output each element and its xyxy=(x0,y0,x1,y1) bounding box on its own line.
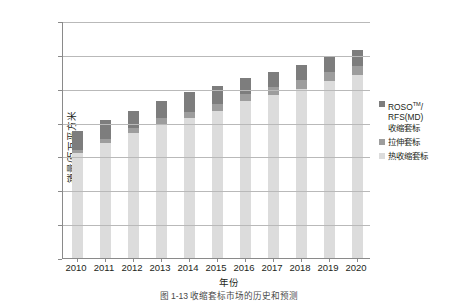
bar-segment[interactable] xyxy=(240,78,251,94)
bar-segment[interactable] xyxy=(100,143,111,258)
bar-group[interactable] xyxy=(296,65,307,258)
bar-segment[interactable] xyxy=(352,50,363,66)
bar-segment[interactable] xyxy=(72,131,83,150)
bar-group[interactable] xyxy=(352,50,363,258)
bar-group[interactable] xyxy=(240,78,251,258)
legend-label-roso-slash: / xyxy=(421,102,423,112)
bar-segment[interactable] xyxy=(128,133,139,258)
legend-swatch-stretch xyxy=(379,139,385,145)
bar-group[interactable] xyxy=(72,131,83,258)
legend-label-rfs: RFS(MD) xyxy=(388,112,423,122)
gridline xyxy=(63,191,370,192)
bar-group[interactable] xyxy=(100,120,111,258)
bar-segment[interactable] xyxy=(268,95,279,258)
x-axis-title: 年份 xyxy=(0,275,458,289)
bar-segment[interactable] xyxy=(352,75,363,258)
legend-label-heatshrink: 热收缩套标 xyxy=(388,151,458,161)
y-axis-labels: 02000400060008000100001200014000 xyxy=(0,0,62,298)
bar-segment[interactable] xyxy=(184,112,195,119)
bar-group[interactable] xyxy=(184,92,195,258)
gridline xyxy=(63,56,370,57)
bar-segment[interactable] xyxy=(296,80,307,88)
bar-group[interactable] xyxy=(212,86,223,258)
bar-segment[interactable] xyxy=(156,101,167,119)
legend-label-roso-name: ROSO xyxy=(388,102,413,112)
bar-segment[interactable] xyxy=(212,111,223,258)
gridline xyxy=(63,22,370,23)
bar-group[interactable] xyxy=(268,72,279,258)
x-tick-label: 2020 xyxy=(340,263,372,273)
gridline xyxy=(63,124,370,125)
gridline xyxy=(63,225,370,226)
legend-label-roso: ROSOTM/ RFS(MD) 收缩套标 xyxy=(388,99,458,133)
bar-segment[interactable] xyxy=(184,118,195,258)
bar-segment[interactable] xyxy=(240,101,251,258)
plot-area: 销量/百万平方米 xyxy=(62,22,370,259)
bar-segment[interactable] xyxy=(184,92,195,111)
legend-label-stretch: 拉伸套标 xyxy=(388,137,458,147)
bar-segment[interactable] xyxy=(324,72,335,81)
bar-segment[interactable] xyxy=(324,81,335,258)
gridline xyxy=(63,90,370,91)
legend-item-heatshrink[interactable]: 热收缩套标 xyxy=(379,151,458,161)
legend-item-stretch[interactable]: 拉伸套标 xyxy=(379,137,458,147)
bar-segment[interactable] xyxy=(324,57,335,73)
legend-swatch-heatshrink xyxy=(379,153,385,159)
bars-layer xyxy=(63,22,370,258)
y-tick-mark xyxy=(58,259,62,260)
trademark-icon: TM xyxy=(413,101,421,107)
bar-segment[interactable] xyxy=(72,153,83,258)
bar-segment[interactable] xyxy=(240,94,251,102)
bar-segment[interactable] xyxy=(352,66,363,75)
legend-swatch-roso xyxy=(379,101,385,107)
bar-segment[interactable] xyxy=(128,111,139,128)
legend: ROSOTM/ RFS(MD) 收缩套标 拉伸套标 热收缩套标 xyxy=(379,99,458,166)
bar-segment[interactable] xyxy=(212,104,223,111)
bar-segment[interactable] xyxy=(296,65,307,80)
gridline xyxy=(63,157,370,158)
figure-caption: 图 1-13 收缩套标市场的历史和预测 xyxy=(0,289,458,301)
bar-group[interactable] xyxy=(128,111,139,258)
bar-segment[interactable] xyxy=(296,89,307,258)
bar-segment[interactable] xyxy=(268,72,279,87)
legend-item-roso[interactable]: ROSOTM/ RFS(MD) 收缩套标 xyxy=(379,99,458,133)
legend-label-roso-cn: 收缩套标 xyxy=(388,123,420,133)
